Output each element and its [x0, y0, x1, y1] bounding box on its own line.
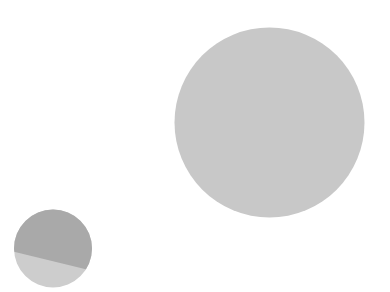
small-circle-chart	[0, 190, 110, 292]
chart-canvas	[0, 0, 390, 292]
large-circle-chart	[175, 28, 365, 218]
large-circle	[175, 28, 365, 218]
